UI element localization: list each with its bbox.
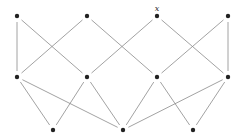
edge-M1-B1 — [90, 82, 119, 125]
edge-M1-B0 — [56, 82, 84, 125]
edge-M3-B2 — [196, 82, 224, 125]
node-T1 — [85, 14, 89, 18]
node-T2 — [155, 14, 159, 18]
hasse-diagram: x — [0, 0, 242, 140]
nodes — [15, 14, 230, 132]
node-B0 — [51, 128, 55, 132]
node-T0 — [15, 14, 19, 18]
node-M1 — [85, 75, 89, 79]
edge-M2-B1 — [126, 82, 154, 125]
node-M3 — [226, 75, 230, 79]
edge-M3-B1 — [128, 80, 222, 128]
node-B1 — [121, 128, 125, 132]
labels: x — [155, 4, 160, 13]
node-M2 — [155, 75, 159, 79]
edges — [17, 20, 228, 127]
node-B2 — [191, 128, 195, 132]
edge-M0-B0 — [20, 82, 49, 125]
node-M0 — [15, 75, 19, 79]
node-T3 — [226, 14, 230, 18]
node-label-T2: x — [155, 4, 160, 13]
